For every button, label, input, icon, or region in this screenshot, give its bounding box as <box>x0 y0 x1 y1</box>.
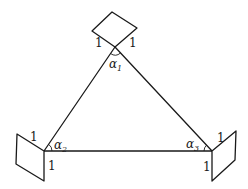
right-square-left-side-label: 1 <box>203 160 211 174</box>
angle-label-alpha3: α3 <box>186 137 199 153</box>
edge-top-right <box>115 47 212 151</box>
right-square-top-side-label: 1 <box>217 131 225 145</box>
angle-arc-left <box>49 144 52 151</box>
angle-label-alpha2: α2 <box>54 138 67 154</box>
angle-label-alpha1: α1 <box>109 57 122 73</box>
left-square-top-side-label: 1 <box>30 130 38 144</box>
triangle-diagram: 1 1 1 1 1 1 α1 α2 α3 <box>0 0 248 189</box>
angle-arc-top <box>111 53 121 55</box>
top-square-left-side-label: 1 <box>95 36 103 50</box>
left-square-right-side-label: 1 <box>48 159 56 173</box>
edge-top-left <box>44 47 115 151</box>
top-square-right-side-label: 1 <box>129 36 137 50</box>
angle-arc-right <box>204 145 207 151</box>
